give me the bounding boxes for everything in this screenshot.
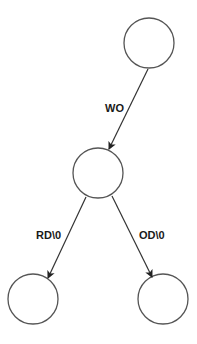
edge-label-rd: RD\0 [36,229,61,241]
node-bottom-right [138,274,188,324]
node-middle [73,148,123,198]
tree-diagram: WO RD\0 OD\0 [0,0,197,344]
edge-label-od: OD\0 [139,229,165,241]
node-bottom-left [8,274,58,324]
node-root [124,18,174,68]
edge-label-wo: WO [105,102,124,114]
